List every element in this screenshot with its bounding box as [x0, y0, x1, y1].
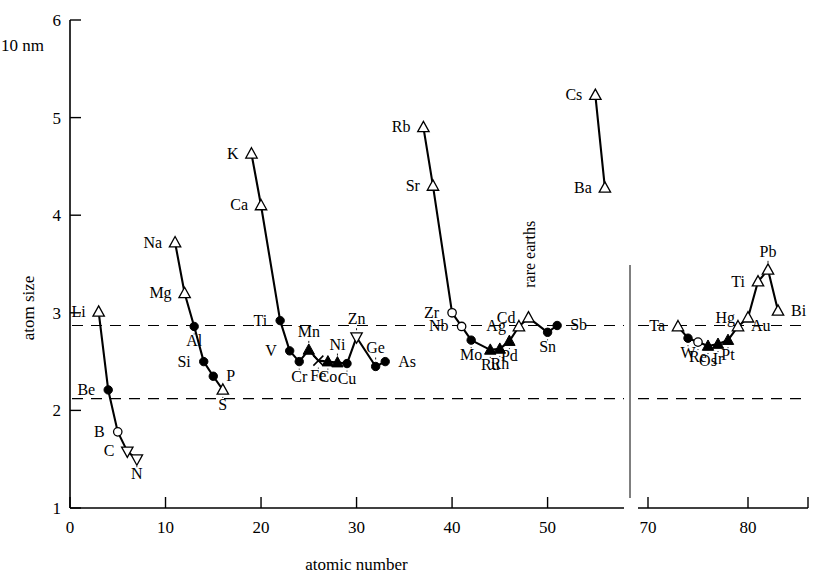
series-line-4 — [595, 95, 605, 188]
marker-triangle-up-open — [93, 306, 104, 316]
y-axis-tick-label: 5 — [53, 109, 62, 128]
element-label-As: As — [398, 353, 416, 370]
element-label-Sr: Sr — [406, 177, 421, 194]
marker-triangle-up-open — [599, 182, 610, 192]
x-axis-tick-label: 40 — [444, 518, 461, 537]
data-point-Ge — [371, 362, 379, 370]
marker-circle-filled — [371, 362, 379, 370]
data-point-Nb — [457, 322, 465, 330]
marker-circle-filled — [190, 322, 198, 330]
marker-triangle-up-open — [772, 305, 783, 315]
data-point-Li — [93, 306, 104, 316]
marker-circle-filled — [684, 334, 692, 342]
element-label-Nb: Nb — [429, 317, 449, 334]
element-label-Bi: Bi — [791, 302, 807, 319]
element-label-Mo: Mo — [460, 346, 482, 363]
x-axis-tick-label: 70 — [640, 518, 657, 537]
marker-triangle-up-open — [523, 312, 534, 322]
element-label-P: P — [226, 367, 235, 384]
y-axis-tick-label: 4 — [53, 206, 62, 225]
element-label-Cr: Cr — [291, 368, 308, 385]
element-label-V: V — [265, 342, 277, 359]
data-point-W — [684, 334, 692, 342]
data-point-Sn — [543, 328, 551, 336]
y-axis-title: atom size — [19, 276, 38, 341]
data-point-Ba — [599, 182, 610, 192]
element-label-Ge: Ge — [366, 339, 385, 356]
x-axis-tick-label: 20 — [253, 518, 270, 537]
x-axis-tick-label: 0 — [66, 518, 75, 537]
data-point-Mo — [467, 336, 475, 344]
data-point-Cr — [295, 357, 303, 365]
marker-circle-open — [448, 309, 456, 317]
data-point-P — [209, 372, 217, 380]
data-point-Al — [190, 322, 198, 330]
data-point-Ca — [255, 199, 266, 209]
element-label-Pt: Pt — [721, 346, 735, 363]
data-point-Cu — [343, 359, 351, 367]
element-label-Ca: Ca — [230, 196, 248, 213]
y-axis-tick-label: 1 — [53, 499, 62, 518]
data-point-Sr — [427, 180, 438, 190]
element-label-N: N — [131, 465, 143, 482]
element-label-Sn: Sn — [539, 338, 556, 355]
data-point-Bi — [772, 305, 783, 315]
element-label-Ni: Ni — [329, 336, 346, 353]
x-axis-tick-label: 10 — [157, 518, 174, 537]
data-point-Ti — [276, 316, 284, 324]
data-point-Sb — [553, 321, 561, 329]
data-point-Mn — [303, 344, 314, 354]
x-axis-tick-label: 80 — [740, 518, 757, 537]
data-point-Cs — [590, 89, 601, 99]
rare-earths-annotation: rare earths — [521, 221, 538, 288]
data-point-Cd — [523, 312, 534, 322]
element-label-Pd: Pd — [501, 347, 518, 364]
element-label-Pb: Pb — [760, 243, 777, 260]
element-label-Cs: Cs — [565, 86, 582, 103]
data-point-Pb — [762, 264, 773, 274]
marker-circle-filled — [467, 336, 475, 344]
chart-canvas: 123456010203040507080atomic numberatom s… — [0, 0, 824, 584]
data-point-Mg — [179, 287, 190, 297]
element-label-Ta: Ta — [649, 317, 665, 334]
element-label-B: B — [94, 423, 105, 440]
element-label-Ti: Ti — [731, 273, 745, 290]
atom-size-chart-figure: 123456010203040507080atomic numberatom s… — [0, 0, 824, 584]
data-point-Rb — [418, 121, 429, 131]
annotations-layer: rare earths — [521, 221, 538, 288]
element-label-Be: Be — [77, 381, 95, 398]
element-label-Si: Si — [177, 353, 191, 370]
data-point-Si — [200, 357, 208, 365]
data-point-V — [285, 347, 293, 355]
marker-circle-filled — [343, 359, 351, 367]
element-label-Li: Li — [71, 303, 86, 320]
marker-circle-filled — [381, 357, 389, 365]
element-label-S: S — [218, 396, 227, 413]
y-axis-unit-label: 10 nm — [1, 36, 44, 55]
marker-circle-filled — [285, 347, 293, 355]
marker-circle-open — [114, 428, 122, 436]
y-axis-tick-label: 6 — [53, 11, 62, 30]
marker-circle-filled — [295, 357, 303, 365]
marker-triangle-up-open — [179, 287, 190, 297]
element-label-Al: Al — [186, 332, 203, 349]
element-label-K: K — [227, 145, 239, 162]
marker-circle-open — [457, 322, 465, 330]
marker-circle-filled — [276, 316, 284, 324]
element-label-C: C — [104, 442, 115, 459]
marker-triangle-up-open — [418, 121, 429, 131]
data-point-N — [131, 455, 142, 465]
element-label-Cu: Cu — [338, 370, 357, 387]
x-axis-tick-label: 50 — [539, 518, 556, 537]
data-point-As — [381, 357, 389, 365]
element-label-Rb: Rb — [392, 118, 411, 135]
marker-triangle-up-open — [427, 180, 438, 190]
x-axis-tick-label: 30 — [348, 518, 365, 537]
marker-circle-filled — [200, 357, 208, 365]
data-markers-layer — [93, 89, 784, 465]
y-axis-tick-label: 3 — [53, 304, 62, 323]
element-label-Mg: Mg — [149, 284, 171, 302]
element-label-Na: Na — [143, 234, 162, 251]
marker-circle-filled — [209, 372, 217, 380]
element-label-Sb: Sb — [570, 316, 587, 333]
